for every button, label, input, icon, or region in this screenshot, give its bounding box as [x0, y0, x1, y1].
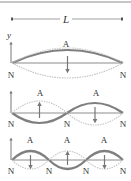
antinode-label: A	[101, 135, 108, 145]
antinode-label: A	[37, 88, 44, 98]
length-dimension: L	[11, 13, 123, 25]
node-label: N	[8, 119, 15, 129]
node-label: N	[120, 70, 127, 80]
y-axis-label: y	[6, 30, 11, 40]
antinode-label: A	[93, 88, 100, 98]
mode-2: A A N N N	[8, 88, 127, 129]
node-label: N	[120, 166, 127, 176]
node-label: N	[64, 119, 71, 129]
length-label: L	[62, 13, 69, 25]
node-label: N	[83, 166, 90, 176]
mode-1: y A N N	[6, 30, 127, 80]
antinode-label: A	[27, 135, 34, 145]
antinode-label: A	[64, 135, 71, 145]
node-label: N	[8, 70, 15, 80]
node-label: N	[8, 166, 15, 176]
node-label: N	[46, 166, 53, 176]
node-label: N	[120, 119, 127, 129]
antinode-label: A	[63, 39, 70, 49]
mode-3: A A A N N N N	[8, 135, 127, 176]
standing-wave-diagram: L y A N N A A N N N A A A	[0, 0, 131, 181]
